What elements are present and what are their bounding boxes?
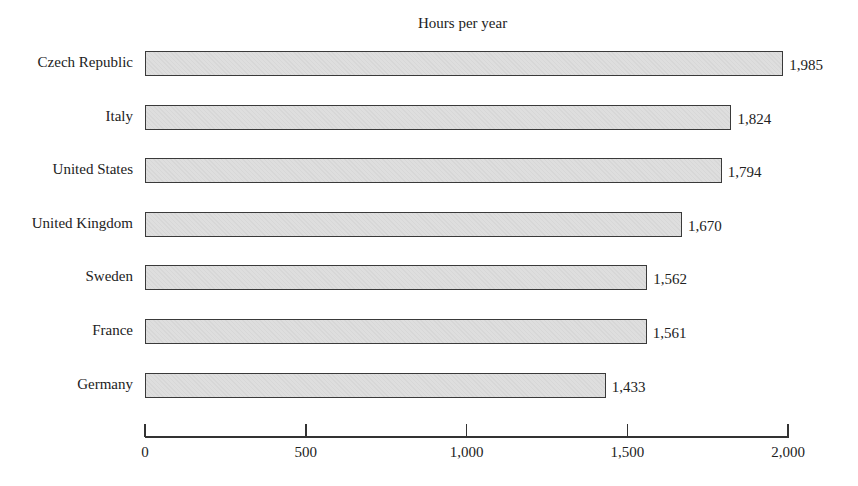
x-tick	[787, 424, 789, 437]
x-tick	[144, 424, 146, 437]
bar-row: Sweden1,562	[0, 265, 858, 292]
value-label: 1,561	[653, 325, 687, 342]
category-label: United Kingdom	[32, 215, 133, 232]
category-label: United States	[53, 161, 133, 178]
bar	[145, 212, 682, 237]
category-label: Italy	[106, 108, 134, 125]
bar	[145, 51, 783, 76]
bar-row: Italy1,824	[0, 105, 858, 132]
value-label: 1,433	[612, 379, 646, 396]
bar	[145, 158, 722, 183]
category-label: Germany	[77, 376, 133, 393]
value-label: 1,985	[789, 57, 823, 74]
bar-row: United States1,794	[0, 158, 858, 185]
bar-row: Czech Republic1,985	[0, 51, 858, 78]
category-label: France	[92, 322, 133, 339]
bar	[145, 265, 647, 290]
value-label: 1,670	[688, 218, 722, 235]
x-tick-label: 0	[141, 444, 149, 461]
bar	[145, 373, 606, 398]
bar	[145, 319, 647, 344]
x-tick-label: 2,000	[771, 444, 805, 461]
value-label: 1,824	[737, 111, 771, 128]
bar-row: France1,561	[0, 319, 858, 346]
bar-row: Germany1,433	[0, 373, 858, 400]
category-label: Sweden	[86, 268, 134, 285]
x-tick-label: 1,000	[450, 444, 484, 461]
value-label: 1,794	[728, 164, 762, 181]
x-tick	[627, 424, 629, 437]
x-tick-label: 1,500	[610, 444, 644, 461]
x-tick	[305, 424, 307, 437]
x-tick	[466, 424, 468, 437]
chart-title: Hours per year	[418, 15, 507, 32]
x-tick-label: 500	[295, 444, 318, 461]
bar-row: United Kingdom1,670	[0, 212, 858, 239]
bar	[145, 105, 731, 130]
value-label: 1,562	[653, 271, 687, 288]
category-label: Czech Republic	[38, 54, 133, 71]
